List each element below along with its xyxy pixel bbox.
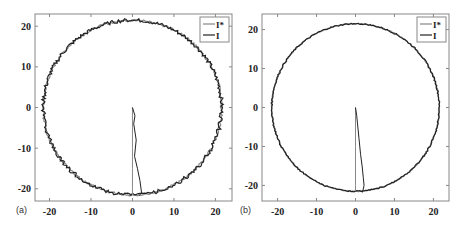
y-tick-label: 10: [248, 63, 258, 74]
panel-label: (b): [240, 205, 251, 215]
legend-label: I: [433, 31, 437, 41]
y-tick-label: 0: [253, 102, 258, 113]
legend-box: [200, 17, 229, 42]
x-tick-label: 0: [130, 206, 135, 217]
x-tick-label: 10: [169, 206, 179, 217]
panel-label: (a): [16, 205, 27, 215]
panel-b: -20-1001020-20-1001020(b)I*I: [240, 14, 449, 217]
legend-label: I: [216, 31, 220, 41]
x-tick-label: 20: [210, 206, 220, 217]
panel-a: -20-1001020-20-1001020(a)I*I: [16, 14, 232, 217]
y-tick-label: 20: [21, 21, 31, 32]
legend-label: I*: [433, 20, 442, 30]
x-tick-label: 0: [353, 206, 358, 217]
legend-label: I*: [216, 20, 225, 30]
y-tick-label: -10: [18, 143, 31, 154]
x-tick-label: -20: [43, 206, 56, 217]
figure: -20-1001020-20-1001020(a)I*I-20-1001020-…: [0, 0, 466, 229]
y-tick-label: -10: [245, 141, 258, 152]
y-tick-label: 10: [21, 61, 31, 72]
legend-box: [417, 17, 446, 42]
series-i-line: [132, 108, 141, 197]
x-tick-label: 20: [428, 206, 438, 217]
x-tick-label: -10: [310, 206, 323, 217]
series-i-line: [356, 108, 365, 193]
legend: I*I: [200, 17, 229, 42]
x-tick-label: -20: [271, 206, 284, 217]
x-tick-label: 10: [389, 206, 399, 217]
y-tick-label: -20: [245, 180, 258, 191]
x-tick-label: -10: [84, 206, 97, 217]
y-tick-label: -20: [18, 183, 31, 194]
legend: I*I: [417, 17, 446, 42]
y-tick-label: 0: [26, 102, 31, 113]
y-tick-label: 20: [248, 24, 258, 35]
